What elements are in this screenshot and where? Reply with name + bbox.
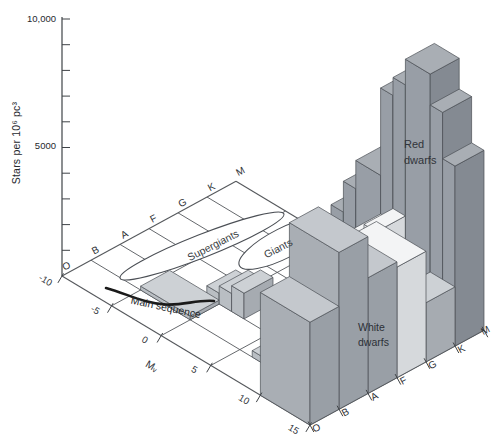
mv-tick-label: 10 [237, 392, 252, 407]
spectral-letter-front: K [456, 342, 467, 355]
spectral-letter-back: B [90, 244, 101, 257]
mv-axis-title: Mᵥ [144, 357, 161, 374]
mv-tick-label: 0 [140, 334, 150, 346]
spectral-letter-back: A [119, 228, 130, 241]
mv-tick-label: 5 [189, 363, 199, 375]
spectral-letter-front: O [310, 421, 322, 434]
spectral-letter-front: M [479, 323, 492, 337]
white-dwarfs-label-line1: White [358, 320, 389, 335]
bar-face-front [310, 306, 339, 425]
mv-tick-label: -10 [37, 272, 54, 289]
mv-tick-label: -5 [89, 303, 102, 317]
spectral-letter-front: G [426, 358, 438, 371]
z-axis-tick-label-10000: 10,000 [8, 13, 56, 24]
bar-face-front [397, 251, 426, 377]
spectral-letter-back: M [234, 164, 247, 178]
hr-3d-histogram-figure: OBAFGKM-10-5051015MᵥOBAFGKM Stars per 10… [0, 0, 496, 438]
red-dwarfs-label-line2: dwarfs [404, 153, 436, 169]
spectral-letter-back: K [206, 180, 217, 193]
red-dwarfs-label-line1: Red [404, 137, 436, 153]
mv-tick-label: 15 [286, 422, 301, 437]
bar-face-front [455, 150, 484, 346]
spectral-letter-back: G [176, 196, 188, 209]
red-dwarfs-label: Red dwarfs [404, 137, 436, 168]
white-dwarfs-label-line2: dwarfs [358, 335, 389, 350]
spectral-letter-front: B [340, 406, 351, 419]
spectral-letter-back: F [148, 212, 159, 225]
mv-axis-tick [58, 273, 64, 283]
white-dwarfs-label: White dwarfs [358, 320, 389, 350]
spectral-letter-front: A [369, 390, 380, 403]
spectral-letter-front: F [398, 374, 409, 387]
z-axis-tick-label-5000: 5000 [8, 140, 56, 151]
